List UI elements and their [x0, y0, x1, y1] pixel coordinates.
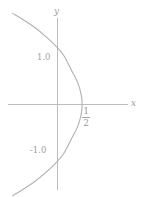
fraction-numerator: 1: [82, 107, 90, 116]
y-tick-label-negative-one: -1.0: [30, 146, 46, 155]
y-axis-label: y: [54, 7, 59, 16]
plot-canvas: [0, 0, 145, 197]
parabola-plot-figure: y x 1.0 -1.0 1 2: [0, 0, 145, 197]
x-intercept-fraction-label: 1 2: [82, 107, 90, 129]
fraction-denominator: 2: [82, 119, 90, 128]
y-tick-label-positive-one: 1.0: [37, 53, 51, 62]
x-axis-label: x: [131, 99, 136, 108]
